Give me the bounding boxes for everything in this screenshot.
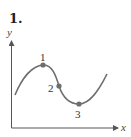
x-axis-label: x <box>120 121 126 133</box>
point-3-marker <box>76 101 81 106</box>
point-2-label: 2 <box>48 82 54 94</box>
point-3-label: 3 <box>75 108 81 120</box>
point-1-label: 1 <box>40 51 46 63</box>
curve-diagram: y x 1 2 3 <box>0 0 131 137</box>
y-axis-label: y <box>6 26 12 38</box>
point-2-marker <box>56 83 61 88</box>
point-1-marker <box>40 62 45 67</box>
